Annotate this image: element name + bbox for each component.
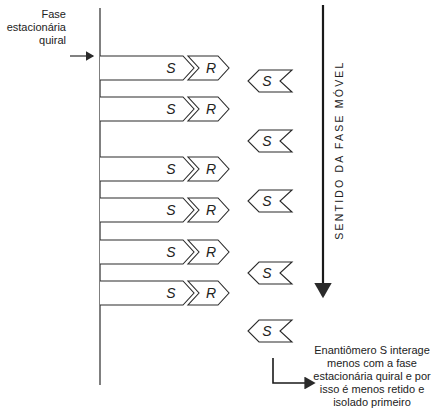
s-symbol: S xyxy=(262,265,272,281)
r-symbol: R xyxy=(206,101,216,117)
s-symbol: S xyxy=(166,161,176,177)
sr-pair: SR xyxy=(100,281,229,305)
s-symbol: S xyxy=(262,323,272,339)
sr-pair: SR xyxy=(100,198,229,222)
s-molecule-shape xyxy=(100,157,194,181)
retained-sr-pairs: SRSRSRSRSRSR xyxy=(100,56,229,305)
elution-elbow-arrow xyxy=(273,358,314,383)
s-enantiomer: S xyxy=(248,130,292,152)
s-symbol: S xyxy=(166,244,176,260)
s-molecule-shape xyxy=(100,198,194,222)
r-symbol: R xyxy=(206,285,216,301)
eluting-s-enantiomers: SSSSS xyxy=(248,70,292,342)
s-symbol: S xyxy=(262,193,272,209)
s-enantiomer: S xyxy=(248,320,292,342)
r-symbol: R xyxy=(206,244,216,260)
s-molecule-shape xyxy=(100,56,194,80)
s-symbol: S xyxy=(166,101,176,117)
s-enantiomer: S xyxy=(248,190,292,212)
r-symbol: R xyxy=(206,202,216,218)
s-symbol: S xyxy=(166,202,176,218)
sr-pair: SR xyxy=(100,97,229,121)
sr-pair: SR xyxy=(100,56,229,80)
mobile-phase-direction-label: SENTIDO DA FASE MÓVEL xyxy=(333,40,347,260)
s-enantiomer-note: Enantiômero S interage menos com a fase … xyxy=(313,344,431,409)
s-molecule-shape xyxy=(100,281,194,305)
s-molecule-shape xyxy=(100,97,194,121)
s-enantiomer: S xyxy=(248,262,292,284)
s-enantiomer: S xyxy=(248,70,292,92)
r-symbol: R xyxy=(206,161,216,177)
r-symbol: R xyxy=(206,60,216,76)
s-symbol: S xyxy=(262,133,272,149)
s-symbol: S xyxy=(166,60,176,76)
chiral-chromatography-diagram: Fase estacionária quiral SRSRSRSRSRSR SS… xyxy=(0,0,433,414)
s-symbol: S xyxy=(262,73,272,89)
sr-pair: SR xyxy=(100,157,229,181)
sr-pair: SR xyxy=(100,240,229,264)
s-molecule-shape xyxy=(100,240,194,264)
s-symbol: S xyxy=(166,285,176,301)
